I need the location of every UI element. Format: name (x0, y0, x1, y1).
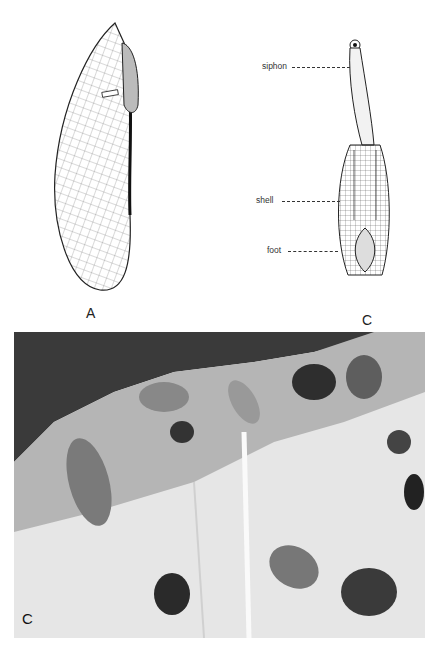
panel-letter-a: A (86, 305, 95, 321)
callout-foot: foot (267, 245, 281, 255)
panel-letter-c: C (22, 610, 33, 627)
callout-shell: shell (256, 195, 273, 205)
leader-foot (288, 251, 338, 252)
panel-b (330, 10, 400, 280)
callout-siphon: siphon (262, 61, 287, 71)
leader-shell (282, 201, 340, 202)
shell-drawing (40, 15, 160, 295)
burrow-photograph (14, 332, 425, 638)
panel-c-photo: C (14, 332, 425, 638)
panel-a (40, 15, 160, 295)
animal-drawing (330, 10, 400, 280)
leader-siphon (292, 67, 350, 68)
panel-letter-b: C (362, 312, 372, 328)
